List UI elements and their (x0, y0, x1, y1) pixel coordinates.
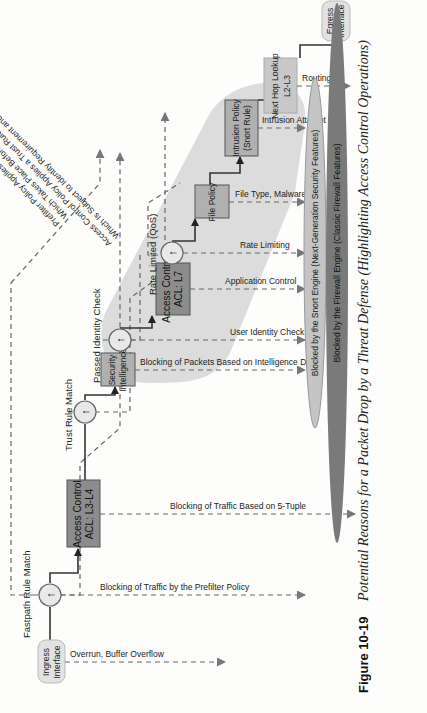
label-rate: Rate Limited (QoS) (147, 214, 158, 295)
label-trust: Trust Rule Match (63, 379, 74, 451)
ngfw-highlight-band (101, 83, 305, 383)
figure-caption: Figure 10-19 Potential Reasons for a Pac… (356, 40, 372, 693)
svg-text:Blocking of Packets Based on I: Blocking of Packets Based on Intelligenc… (140, 357, 318, 367)
label-fastpath: Fastpath Rule Match (21, 550, 32, 638)
figure-caption-text: Potential Reasons for a Packet Drop by a… (356, 40, 372, 602)
security-intelligence-box: Security Intelligence (101, 348, 135, 391)
svg-text:Blocked by the Snort Engine (N: Blocked by the Snort Engine (Next-Genera… (310, 130, 320, 377)
arrow-up-icon: ↑ (44, 592, 56, 598)
decision-circle-identity: ↑ (109, 329, 131, 351)
svg-text:Blocking of Traffic Based on 5: Blocking of Traffic Based on 5-Tuple (170, 501, 306, 511)
arrow-up-icon: ↑ (79, 409, 91, 415)
firewall-engine-ellipse: Blocked by the Firewall Engine (Classic … (326, 3, 348, 543)
figure-number: Figure 10-19 (356, 616, 371, 693)
access-control-l7-box: Access Control ACL: L7 (156, 255, 190, 322)
svg-text:Access Control: Access Control (161, 255, 172, 322)
decision-circle-trust: ↑ (74, 401, 96, 423)
svg-text:Ingress: Ingress (41, 648, 51, 676)
svg-text:Rate Limiting: Rate Limiting (240, 240, 290, 250)
svg-text:Application Control: Application Control (225, 276, 296, 286)
intrusion-policy-box: Intrusion Policy (Snort Rule) (225, 98, 258, 156)
svg-text:Intrusion Policy: Intrusion Policy (231, 98, 241, 156)
rotated-figure: Ingress Interface ↑ Access Control ACL: … (0, 0, 427, 713)
arrow-up-icon: ↑ (114, 337, 126, 343)
label-identity: Passed Identity Check (91, 288, 102, 383)
decision-circle-rate: ↑ (161, 242, 183, 264)
svg-text:File Policy: File Policy (207, 182, 217, 221)
svg-text:ACL: L3-L4: ACL: L3-L4 (84, 488, 95, 539)
svg-text:User Identity Check: User Identity Check (230, 327, 305, 337)
svg-text:(Snort Rule): (Snort Rule) (242, 105, 252, 151)
svg-text:Blocking of Traffic by the Pre: Blocking of Traffic by the Prefilter Pol… (100, 582, 250, 592)
arrow-up-icon: ↑ (166, 250, 178, 256)
svg-text:Interface: Interface (52, 645, 62, 678)
snort-engine-ellipse: Blocked by the Snort Engine (Next-Genera… (304, 78, 326, 428)
access-control-l3-l4-box: Access Control ACL: L3-L4 (67, 480, 100, 548)
svg-text:File Type, Malware: File Type, Malware (235, 189, 306, 199)
svg-text:Access Control: Access Control (72, 480, 83, 547)
svg-text:Overrun, Buffer Overflow: Overrun, Buffer Overflow (70, 649, 165, 659)
packet-drop-diagram: Ingress Interface ↑ Access Control ACL: … (0, 0, 427, 713)
svg-text:ACL: L7: ACL: L7 (173, 270, 184, 307)
svg-text:Next Hop Lookup: Next Hop Lookup (270, 53, 280, 119)
file-policy-box: File Policy (195, 182, 229, 221)
ingress-interface: Ingress Interface (38, 640, 65, 683)
svg-text:Blocked by the Firewall Engine: Blocked by the Firewall Engine (Classic … (332, 143, 342, 362)
next-hop-lookup-box: Next Hop Lookup L2-L3 (262, 53, 297, 119)
svg-text:Intelligence: Intelligence (118, 348, 128, 391)
decision-circle-fastpath: ↑ (39, 584, 61, 606)
svg-text:L2-L3: L2-L3 (282, 75, 292, 97)
svg-text:Security: Security (107, 354, 117, 385)
